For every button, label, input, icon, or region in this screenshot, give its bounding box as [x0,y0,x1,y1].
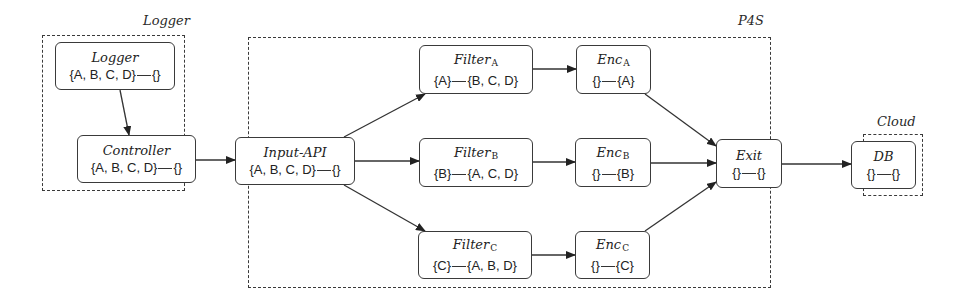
node-title-text: Enc [597,145,622,160]
node-controller: Controller{A, B, C, D}{} [77,135,196,183]
connector-dash [877,174,891,175]
node-sets: {A, B, C, D}{} [249,161,340,178]
node-title: DB [874,148,894,165]
node-right-set: {B, C, D} [467,72,518,89]
connector-dash [602,81,616,82]
connector-dash [317,170,331,171]
node-title-text: Exit [736,148,762,163]
node-filter-c: FilterC{C}{A, B, D} [418,231,532,279]
node-filter-b: FilterB{B}{A, C, D} [419,138,533,187]
node-title-subscript: A [623,58,630,68]
connector-dash [137,75,151,76]
node-title-text: Input-API [263,145,326,160]
node-title-text: Controller [103,143,171,158]
node-title-subscript: A [491,58,498,68]
node-exit: Exit{}{} [716,139,782,188]
node-right-set: {A} [617,72,634,89]
node-right-set: {C} [616,257,634,274]
node-right-set: {} [152,66,161,83]
node-title: FilterA [454,51,498,72]
node-left-set: {B} [434,165,451,182]
node-title-text: Filter [453,237,489,252]
node-left-set: {} [867,165,876,182]
node-db: DB{}{} [851,141,916,189]
node-filter-a: FilterA{A}{B, C, D} [419,45,533,94]
connector-dash [601,266,615,267]
connector-dash [742,173,756,174]
node-title-subscript: C [622,243,629,253]
cloud-group-label: Cloud [877,114,916,129]
node-sets: {}{B} [592,165,634,182]
connector-dash [452,266,466,267]
node-sets: {}{} [867,165,900,182]
connector-dash [452,174,466,175]
node-right-set: {} [757,164,766,181]
node-left-set: {A, B, C, D} [91,159,157,176]
node-left-set: {} [591,257,600,274]
node-sets: {}{C} [591,257,634,274]
node-title: Logger [91,49,138,66]
node-right-set: {} [332,161,341,178]
node-title-text: Enc [597,52,622,67]
node-title-subscript: B [623,151,630,161]
p4s-group-label: P4S [738,13,764,28]
connector-dash [602,174,616,175]
node-title: EncB [597,144,630,165]
node-title: Controller [103,142,171,159]
node-title: Input-API [263,144,326,161]
node-input-api: Input-API{A, B, C, D}{} [235,137,355,185]
node-left-set: {C} [433,257,451,274]
logger-group-label: Logger [143,13,190,28]
node-logger: Logger{A, B, C, D}{} [55,42,175,90]
node-title: FilterC [453,236,497,257]
node-sets: {A, B, C, D}{} [91,159,182,176]
node-title: FilterB [454,144,498,165]
node-sets: {B}{A, C, D} [434,165,518,182]
node-title-text: Logger [91,50,138,65]
node-sets: {A, B, C, D}{} [69,66,160,83]
node-left-set: {} [592,165,601,182]
node-title: EncA [597,51,630,72]
connector-dash [452,81,466,82]
node-right-set: {B} [617,165,634,182]
node-right-set: {} [173,159,182,176]
node-enc-a: EncA{}{A} [576,45,651,94]
node-title: EncC [596,236,629,257]
node-left-set: {} [592,72,601,89]
node-title-subscript: B [491,151,498,161]
node-title-text: Enc [596,237,621,252]
node-title-text: Filter [454,145,490,160]
node-title-text: DB [874,149,894,164]
node-left-set: {} [732,164,741,181]
node-title-subscript: C [490,243,497,253]
node-sets: {C}{A, B, D} [433,257,517,274]
node-sets: {}{} [732,164,765,181]
node-title-text: Filter [454,52,490,67]
connector-dash [158,168,172,169]
node-sets: {}{A} [592,72,634,89]
node-enc-b: EncB{}{B} [575,138,651,187]
node-sets: {A}{B, C, D} [434,72,518,89]
node-left-set: {A, B, C, D} [249,161,315,178]
node-right-set: {} [892,165,901,182]
node-right-set: {A, C, D} [467,165,518,182]
node-left-set: {A, B, C, D} [69,66,135,83]
node-right-set: {A, B, D} [467,257,517,274]
node-enc-c: EncC{}{C} [575,231,650,279]
node-title: Exit [736,147,762,164]
node-left-set: {A} [434,72,451,89]
